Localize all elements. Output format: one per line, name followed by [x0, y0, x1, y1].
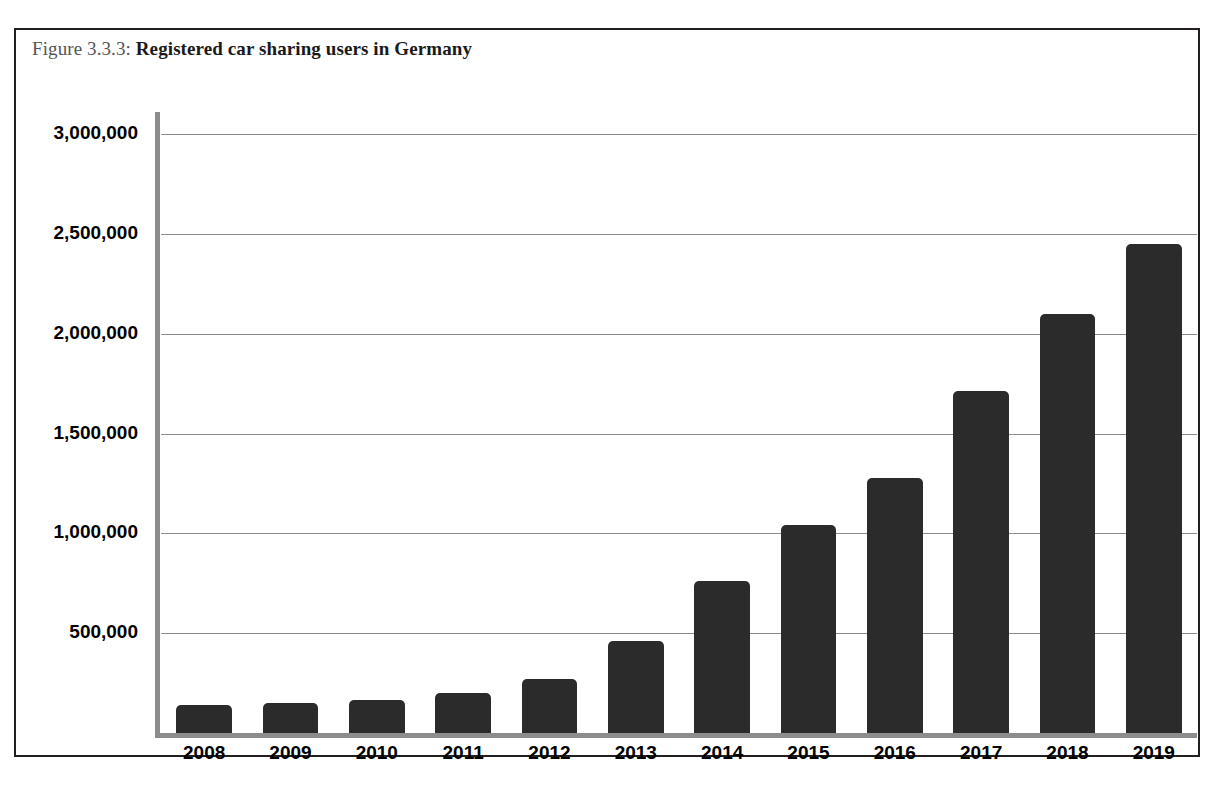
plot-area	[161, 112, 1197, 737]
x-axis-line	[155, 733, 1197, 738]
y-axis-tick-labels: 3,000,0002,500,0002,000,0001,500,0001,00…	[16, 112, 147, 737]
bar-2019[interactable]	[1126, 244, 1182, 733]
y-axis-line	[155, 112, 160, 734]
y-tick-label: 2,500,000	[16, 222, 138, 244]
bar-slot	[867, 112, 923, 733]
y-tick-label: 1,500,000	[16, 422, 138, 444]
bar-2015[interactable]	[781, 525, 837, 733]
x-tick-label-2019: 2019	[1111, 742, 1197, 764]
x-tick-label-2008: 2008	[161, 742, 247, 764]
y-tick-label: 500,000	[16, 621, 138, 643]
bar-2012[interactable]	[522, 679, 578, 733]
figure-frame: Figure 3.3.3: Registered car sharing use…	[14, 28, 1200, 757]
figure-caption: Figure 3.3.3: Registered car sharing use…	[32, 38, 472, 60]
x-axis-tick-labels: 2008200920102011201220132014201520162017…	[161, 742, 1197, 772]
bar-slot	[263, 112, 319, 733]
x-tick-label-2013: 2013	[593, 742, 679, 764]
x-tick-label-2011: 2011	[420, 742, 506, 764]
bar-2013[interactable]	[608, 641, 664, 733]
bar-slot	[1040, 112, 1096, 733]
bar-2010[interactable]	[349, 700, 405, 733]
bar-slot	[608, 112, 664, 733]
x-tick-label-2009: 2009	[247, 742, 333, 764]
x-tick-label-2017: 2017	[938, 742, 1024, 764]
bar-2008[interactable]	[176, 705, 232, 733]
x-tick-label-2016: 2016	[852, 742, 938, 764]
x-tick-label-2010: 2010	[334, 742, 420, 764]
x-tick-label-2018: 2018	[1024, 742, 1110, 764]
y-tick-label: 3,000,000	[16, 122, 138, 144]
bar-slot	[176, 112, 232, 733]
y-tick-label: 2,000,000	[16, 322, 138, 344]
bar-slot	[1126, 112, 1182, 733]
y-tick-label: 1,000,000	[16, 521, 138, 543]
bar-slot	[435, 112, 491, 733]
figure-caption-title: Registered car sharing users in Germany	[136, 38, 472, 59]
bar-slot	[781, 112, 837, 733]
figure-caption-label: Figure 3.3.3:	[32, 38, 131, 59]
bar-slot	[522, 112, 578, 733]
bar-slot	[953, 112, 1009, 733]
x-tick-label-2012: 2012	[506, 742, 592, 764]
bar-2016[interactable]	[867, 478, 923, 733]
bar-2009[interactable]	[263, 703, 319, 733]
x-tick-label-2014: 2014	[679, 742, 765, 764]
x-tick-label-2015: 2015	[765, 742, 851, 764]
bar-slot	[694, 112, 750, 733]
bar-slot	[349, 112, 405, 733]
bar-2017[interactable]	[953, 391, 1009, 733]
bar-2014[interactable]	[694, 581, 750, 733]
bar-series	[161, 112, 1197, 733]
bar-2018[interactable]	[1040, 314, 1096, 733]
bar-2011[interactable]	[435, 693, 491, 733]
